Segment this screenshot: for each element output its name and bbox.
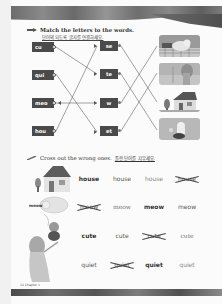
connector-dot[interactable] — [52, 129, 56, 133]
letter-chip-label: hou — [35, 128, 46, 134]
letter-chip-label: w — [107, 100, 112, 106]
letter-chip-meo[interactable]: meo — [32, 98, 54, 108]
letter-chip-hou[interactable]: hou — [32, 126, 54, 136]
exercise2-instruction-ko: 틀린 단어를 지우세요. — [115, 155, 155, 161]
svg-text:meow: meow — [29, 203, 43, 208]
word-option[interactable]: cute — [108, 232, 136, 239]
word-option[interactable]: quiet — [173, 261, 201, 268]
word-option[interactable]: house — [140, 175, 168, 182]
connector-dot[interactable] — [118, 129, 121, 132]
letter-chip-se[interactable]: se — [100, 41, 118, 51]
word-option[interactable]: cute — [173, 232, 201, 239]
house-illustration — [33, 164, 73, 194]
word-option[interactable]: meow — [173, 203, 201, 210]
letter-chip-label: et — [106, 128, 112, 134]
connector-dot[interactable] — [118, 72, 121, 75]
page-gutter — [0, 0, 11, 304]
exercise1-instruction-ko: 단어의 되도록 글자를 연결하세요. — [42, 34, 103, 40]
girl-with-puppy-illustration — [24, 212, 68, 284]
letter-chip-qui[interactable]: qui — [32, 70, 54, 80]
letter-chip-label: meo — [35, 100, 48, 106]
cat-picture[interactable] — [159, 35, 200, 57]
chapter-label: Chapter 1 — [25, 283, 40, 287]
pencil-icon — [27, 156, 37, 160]
word-option[interactable]: cute — [75, 232, 103, 239]
word-option[interactable]: house — [108, 175, 136, 182]
quiet-girl-picture[interactable] — [159, 63, 200, 85]
exercise1-instruction: Match the letters to the words. — [27, 27, 134, 33]
word-option[interactable]: quiet — [140, 261, 168, 268]
letter-chip-cu[interactable]: cu — [32, 42, 54, 52]
word-option-crossed[interactable]: meow — [75, 203, 103, 210]
letter-chip-label: se — [106, 43, 113, 49]
word-option-crossed[interactable]: house — [173, 175, 201, 182]
word-option[interactable]: meow — [108, 203, 136, 210]
word-option[interactable]: house — [75, 175, 103, 182]
house-picture[interactable] — [159, 90, 200, 112]
connector-dot[interactable] — [118, 44, 121, 47]
letter-chip-label: cu — [35, 44, 42, 50]
exercise2-instruction: Cross out the wrong ones. 틀린 단어를 지우세요. — [27, 155, 155, 161]
letter-chip-label: qui — [35, 72, 44, 78]
pencil-arrow-icon — [27, 28, 37, 32]
word-option-crossed[interactable]: quiet — [108, 261, 136, 268]
connector-dot[interactable] — [52, 73, 56, 77]
cute-puppy-picture[interactable] — [159, 118, 200, 140]
letter-chip-et[interactable]: et — [100, 126, 118, 136]
footer-banner — [11, 289, 222, 296]
exercise2-instruction-text: Cross out the wrong ones. — [40, 155, 112, 161]
page-number: 12 — [20, 283, 24, 287]
exercise1-instruction-text: Match the letters to the words. — [40, 27, 134, 33]
letter-chip-label: te — [106, 71, 112, 77]
connector-dot[interactable] — [118, 101, 121, 104]
connector-dot[interactable] — [52, 45, 56, 49]
letter-chip-w[interactable]: w — [100, 98, 118, 108]
connector-dot[interactable] — [52, 101, 56, 105]
letter-chip-te[interactable]: te — [100, 69, 118, 79]
word-option[interactable]: meow — [140, 203, 168, 210]
word-option[interactable]: quiet — [75, 261, 103, 268]
word-option-crossed[interactable]: cute — [140, 232, 168, 239]
